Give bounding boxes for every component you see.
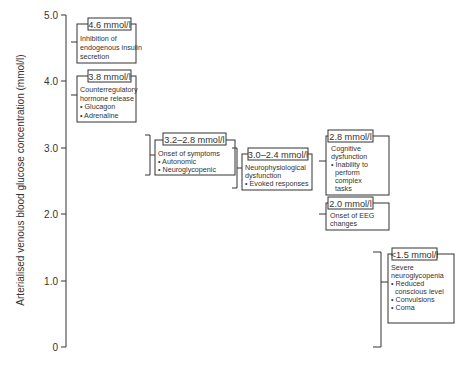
y-tick-4: 4.0 — [44, 76, 58, 87]
range-bracket — [373, 252, 381, 347]
y-axis-label: Arterialised venous blood glucose concen… — [15, 54, 26, 305]
threshold-label: 2.0 mmol/l — [329, 199, 371, 209]
threshold-label: 3.8 mmol/l — [88, 72, 130, 82]
box-text: endogenous insulin — [80, 43, 142, 52]
box-text: • Neuroglycopenic — [158, 165, 216, 174]
threshold-box-2-8: 2.8 mmol/l Cognitive dysfunction • Inabi… — [319, 130, 389, 195]
y-tick-3: 3.0 — [44, 143, 58, 154]
threshold-label: 3.2–2.8 mmol/l — [164, 135, 224, 145]
threshold-label: 4.6 mmol/l — [88, 20, 130, 30]
threshold-box-below-1-5: <1.5 mmol/l Severe neuroglycopenia • Red… — [373, 248, 454, 347]
threshold-box-3-0-2-4: 3.0–2.4 mmol/l Neurophysiological dysfun… — [232, 148, 312, 190]
threshold-box-4-6: 4.6 mmol/l Inhibition of endogenous insu… — [71, 18, 142, 63]
threshold-label: 3.0–2.4 mmol/l — [248, 150, 308, 160]
hypoglycaemia-threshold-diagram: Arterialised venous blood glucose concen… — [0, 0, 466, 369]
box-text: Inhibition of — [80, 34, 117, 43]
y-tick-0: 0 — [52, 342, 58, 353]
threshold-label: 2.8 mmol/l — [329, 132, 371, 142]
y-tick-5: 5.0 — [44, 10, 58, 21]
y-tick-2: 2.0 — [44, 209, 58, 220]
range-bracket — [145, 135, 150, 175]
threshold-label: <1.5 mmol/l — [391, 250, 439, 260]
threshold-box-3-8: 3.8 mmol/l Counterregulatory hormone rel… — [71, 70, 138, 122]
box-text: secretion — [80, 52, 109, 61]
y-axis: 5.0 4.0 3.0 2.0 1.0 0 — [44, 10, 66, 353]
box-text: • Coma — [391, 303, 415, 312]
box-text: • Adrenaline — [80, 111, 118, 120]
threshold-box-2-0: 2.0 mmol/l Onset of EEG changes — [319, 197, 389, 230]
box-text: changes — [330, 219, 358, 228]
y-tick-1: 1.0 — [44, 276, 58, 287]
box-text: • Evoked responses — [245, 179, 309, 188]
threshold-box-3-2-2-8: 3.2–2.8 mmol/l Onset of symptoms • Auton… — [145, 133, 235, 175]
box-text: tasks — [335, 184, 352, 193]
